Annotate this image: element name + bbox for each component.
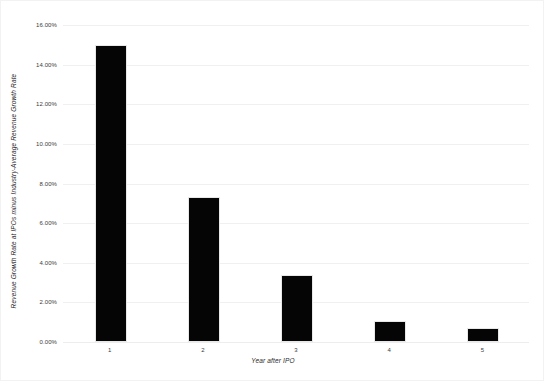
y-axis-tick-label: 2.00% xyxy=(1,299,57,305)
y-axis-tick-label: 10.00% xyxy=(1,141,57,147)
y-axis-tick-label: 0.00% xyxy=(1,339,57,345)
x-axis-tick-label: 3 xyxy=(276,347,316,353)
x-axis-tick-label: 1 xyxy=(90,347,130,353)
gridline xyxy=(63,25,529,26)
axis-baseline xyxy=(63,342,529,343)
bar xyxy=(467,328,499,342)
y-axis-tick-label: 16.00% xyxy=(1,22,57,28)
bar xyxy=(95,45,127,342)
y-axis-tick-label: 8.00% xyxy=(1,181,57,187)
x-axis-title: Year after IPO xyxy=(1,357,544,364)
plot-area xyxy=(63,25,529,342)
y-axis-tick-label: 4.00% xyxy=(1,260,57,266)
bar xyxy=(281,275,313,342)
gridline xyxy=(63,184,529,185)
y-axis-tick-label: 6.00% xyxy=(1,220,57,226)
x-axis-tick-label: 5 xyxy=(462,347,502,353)
x-axis-tick-label: 2 xyxy=(183,347,223,353)
gridline xyxy=(63,104,529,105)
chart-figure: Revenue Growth Rate at IPOs minus Indust… xyxy=(0,0,544,381)
y-axis-title: Revenue Growth Rate at IPOs minus Indust… xyxy=(10,73,17,308)
y-axis-tick-label: 14.00% xyxy=(1,62,57,68)
bar xyxy=(374,321,406,342)
x-axis-tick-label: 4 xyxy=(369,347,409,353)
gridline xyxy=(63,223,529,224)
y-axis-tick-label: 12.00% xyxy=(1,101,57,107)
gridline xyxy=(63,144,529,145)
gridline xyxy=(63,263,529,264)
bar xyxy=(188,197,220,342)
gridline xyxy=(63,65,529,66)
